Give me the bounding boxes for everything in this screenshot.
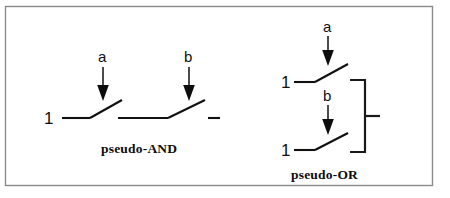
or-label-a: a	[323, 18, 332, 35]
and-label-b: b	[184, 48, 192, 65]
or-caption: pseudo-OR	[291, 167, 358, 182]
and-caption: pseudo-AND	[101, 141, 177, 156]
or-supply-label-bottom: 1	[281, 141, 290, 160]
and-supply-label-1: 1	[44, 109, 53, 128]
switch-network-figure: 1 a b pseudo-AND	[0, 0, 450, 198]
or-supply-label-top: 1	[281, 73, 290, 92]
figure-border	[6, 7, 433, 186]
or-label-b: b	[323, 87, 331, 104]
and-label-a: a	[98, 48, 107, 65]
figure-container: 1 a b pseudo-AND	[0, 0, 450, 198]
